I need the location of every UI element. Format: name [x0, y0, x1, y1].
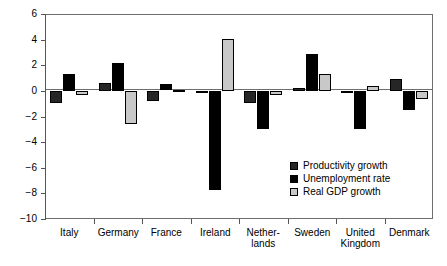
bar	[160, 84, 172, 90]
bar	[257, 91, 269, 129]
x-tick-mark	[191, 219, 192, 224]
bar	[173, 90, 185, 92]
y-tick-label: −6	[11, 163, 37, 173]
bar	[390, 79, 402, 91]
y-tick-label: −2	[11, 112, 37, 122]
bar	[367, 86, 379, 91]
y-tick-label: 0	[11, 86, 37, 96]
y-tick-mark	[41, 14, 46, 15]
bar	[99, 83, 111, 91]
bar	[209, 91, 221, 190]
bar	[112, 63, 124, 91]
bar	[416, 91, 428, 99]
legend: Productivity growth Unemployment rate Re…	[290, 160, 390, 199]
legend-item: Unemployment rate	[290, 173, 390, 184]
bar	[319, 74, 331, 91]
y-tick-mark	[41, 65, 46, 66]
bar	[63, 74, 75, 91]
bar	[244, 91, 256, 103]
y-tick-mark	[41, 193, 46, 194]
legend-swatch-unemployment-rate	[290, 175, 298, 183]
y-tick-label: 2	[11, 60, 37, 70]
x-tick-mark	[288, 219, 289, 224]
x-tick-mark	[385, 219, 386, 224]
y-tick-mark	[41, 117, 46, 118]
x-tick-mark	[239, 219, 240, 224]
bar	[196, 91, 208, 93]
y-tick-label: 6	[11, 9, 37, 19]
y-tick-label: −10	[11, 214, 37, 224]
legend-item: Productivity growth	[290, 160, 390, 171]
bar	[125, 91, 137, 124]
bar	[293, 88, 305, 91]
bar	[222, 39, 234, 91]
y-tick-label: −8	[11, 188, 37, 198]
x-tick-mark	[336, 219, 337, 224]
legend-swatch-real-gdp-growth	[290, 188, 298, 196]
y-tick-label: −4	[11, 137, 37, 147]
y-tick-mark	[41, 91, 46, 92]
y-tick-mark	[41, 168, 46, 169]
legend-swatch-productivity-growth	[290, 162, 298, 170]
legend-item: Real GDP growth	[290, 186, 390, 197]
y-tick-mark	[41, 40, 46, 41]
bar-chart: 6420−2−4−6−8−10 ItalyGermanyFranceIrelan…	[0, 0, 447, 266]
y-tick-label: 4	[11, 35, 37, 45]
x-tick-mark	[142, 219, 143, 224]
bar	[354, 91, 366, 129]
bar	[306, 54, 318, 91]
legend-label-unemployment-rate: Unemployment rate	[303, 173, 390, 184]
bar	[76, 91, 88, 95]
bar	[341, 91, 353, 93]
bar	[270, 91, 282, 95]
y-tick-mark	[41, 219, 46, 220]
legend-label-productivity-growth: Productivity growth	[303, 160, 387, 171]
bar	[147, 91, 159, 101]
x-axis-category-label: Denmark	[377, 227, 442, 238]
bar	[50, 91, 62, 103]
y-tick-mark	[41, 142, 46, 143]
bar	[403, 91, 415, 110]
legend-label-real-gdp-growth: Real GDP growth	[303, 186, 381, 197]
x-tick-mark	[94, 219, 95, 224]
